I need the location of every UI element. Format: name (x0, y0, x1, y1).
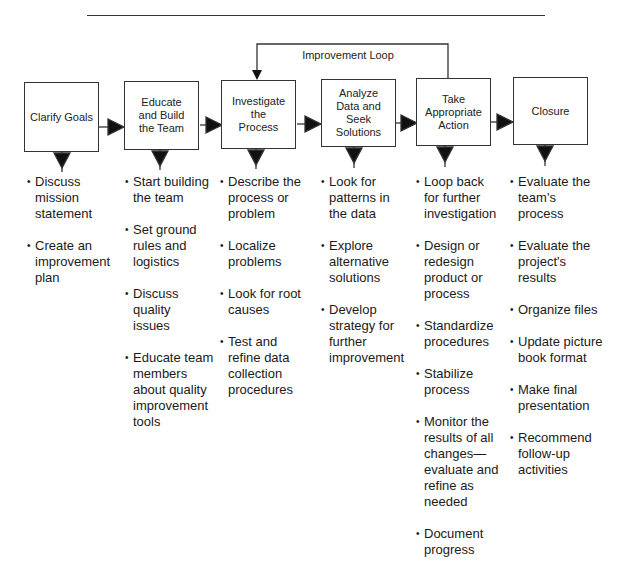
action-item: Organize files (510, 302, 606, 318)
action-item: Evaluate the team's process (510, 174, 600, 222)
improvement-loop-label: Improvement Loop (300, 49, 396, 61)
action-item: Document progress (416, 526, 494, 558)
actions-analyze-data: Look for patterns in the data Explore al… (321, 174, 413, 382)
step-take-action: Take Appropriate Action (416, 78, 491, 146)
step-title: Take Appropriate Action (425, 93, 482, 132)
action-item: Set ground rules and logistics (125, 222, 209, 270)
step-title: Analyze Data and Seek Solutions (324, 87, 393, 139)
action-item: Design or redesign product or process (416, 238, 490, 302)
action-item: Explore alternative solutions (321, 238, 413, 286)
actions-educate-build-team: Start building the team Set ground rules… (125, 174, 223, 446)
action-item: Discuss mission statement (27, 174, 111, 222)
action-item: Localize problems (220, 238, 298, 270)
action-item: Monitor the results of all changes—evalu… (416, 414, 504, 510)
action-item: Discuss quality issues (125, 286, 193, 334)
step-closure: Closure (513, 77, 588, 145)
step-investigate-process: Investigate the Process (221, 80, 296, 149)
action-item: Look for patterns in the data (321, 174, 399, 222)
actions-clarify-goals: Discuss mission statement Create an impr… (27, 174, 111, 302)
action-item: Update picture book format (510, 334, 606, 366)
action-item: Standardize procedures (416, 318, 508, 350)
action-item: Test and refine data collection procedur… (220, 334, 308, 398)
action-item: Evaluate the project's results (510, 238, 600, 286)
action-item: Start building the team (125, 174, 209, 206)
step-title: Investigate the Process (232, 95, 285, 134)
action-item: Make final presentation (510, 382, 602, 414)
step-title: Educate and Build the Team (139, 96, 185, 135)
step-title: Closure (532, 105, 570, 118)
action-item: Educate team members about quality impro… (125, 350, 223, 430)
action-item: Stabilize process (416, 366, 508, 398)
step-educate-build-team: Educate and Build the Team (124, 81, 199, 150)
actions-closure: Evaluate the team's process Evaluate the… (510, 174, 606, 494)
step-title: Clarify Goals (30, 111, 93, 124)
actions-take-action: Loop back for further investigation Desi… (416, 174, 508, 574)
action-item: Develop strategy for further improvement (321, 302, 413, 366)
action-item: Loop back for further investigation (416, 174, 502, 222)
step-analyze-data: Analyze Data and Seek Solutions (321, 79, 396, 147)
action-item: Recommend follow-up activities (510, 430, 600, 478)
step-clarify-goals: Clarify Goals (24, 82, 99, 152)
action-item: Describe the process or problem (220, 174, 314, 222)
loop-arrowhead-icon (252, 70, 262, 80)
actions-investigate-process: Describe the process or problem Localize… (220, 174, 314, 414)
action-item: Look for root causes (220, 286, 314, 318)
action-item: Create an improvement plan (27, 238, 111, 286)
